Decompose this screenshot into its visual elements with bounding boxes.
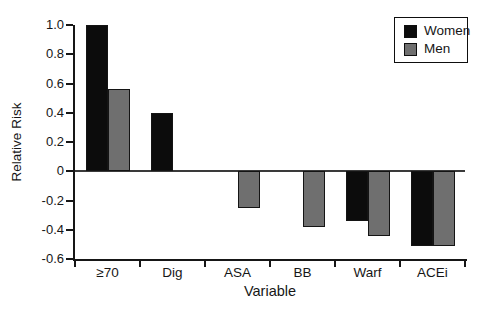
category-label: Warf bbox=[336, 265, 400, 280]
legend-swatch-men bbox=[404, 43, 417, 56]
legend-entry: Women bbox=[404, 24, 463, 38]
zero-line bbox=[75, 170, 465, 172]
y-tick bbox=[66, 53, 73, 55]
bar-women-0 bbox=[86, 25, 108, 171]
y-tick bbox=[66, 83, 73, 85]
y-tick bbox=[66, 24, 73, 26]
legend: WomenMen bbox=[394, 17, 468, 63]
y-tick-label: 0 bbox=[26, 163, 64, 179]
y-axis-line bbox=[73, 25, 75, 261]
category-label: ASA bbox=[206, 265, 270, 280]
bar-men-2 bbox=[238, 171, 260, 208]
x-axis-title: Variable bbox=[205, 283, 335, 299]
bar-men-0 bbox=[108, 89, 130, 171]
bar-women-1 bbox=[151, 113, 173, 172]
category-label: ACEi bbox=[401, 265, 465, 280]
y-tick-label: -0.2 bbox=[26, 193, 64, 209]
category-label: Dig bbox=[141, 265, 205, 280]
bar-women-5 bbox=[411, 171, 433, 246]
y-tick-label: 0.4 bbox=[26, 105, 64, 121]
legend-entry: Men bbox=[404, 42, 463, 56]
y-tick bbox=[66, 229, 73, 231]
legend-swatch-women bbox=[404, 25, 417, 38]
bar-men-5 bbox=[433, 171, 455, 246]
y-tick bbox=[66, 258, 73, 260]
y-tick bbox=[66, 200, 73, 202]
bar-chart-figure: Relative Risk Variable WomenMen 1.00.80.… bbox=[0, 0, 483, 315]
category-label: ≥70 bbox=[76, 265, 140, 280]
category-label: BB bbox=[271, 265, 335, 280]
y-tick-label: 0.8 bbox=[26, 46, 64, 62]
bar-men-3 bbox=[303, 171, 325, 227]
y-tick bbox=[66, 141, 73, 143]
y-tick-label: -0.6 bbox=[26, 251, 64, 267]
y-axis-title: Relative Risk bbox=[9, 81, 25, 203]
y-tick-label: 0.2 bbox=[26, 134, 64, 150]
legend-label: Women bbox=[424, 24, 470, 38]
y-tick bbox=[66, 112, 73, 114]
bar-men-4 bbox=[368, 171, 390, 235]
y-tick-label: -0.4 bbox=[26, 222, 64, 238]
y-tick bbox=[66, 170, 73, 172]
y-tick-label: 1.0 bbox=[26, 17, 64, 33]
bar-women-4 bbox=[346, 171, 368, 221]
y-tick-label: 0.6 bbox=[26, 76, 64, 92]
legend-label: Men bbox=[424, 42, 450, 56]
